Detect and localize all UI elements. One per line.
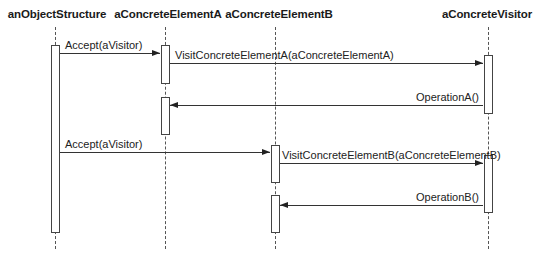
object-title-anobjectstructure: anObjectStructure [8, 8, 107, 20]
arrowhead-icon [280, 202, 288, 208]
message-arrow-accept-a [60, 53, 160, 54]
message-arrow-accept-b [60, 152, 270, 153]
activation-aconcretevisitor-2 [484, 155, 493, 213]
message-arrow-operation-a [170, 105, 483, 106]
sequence-diagram: anObjectStructure aConcreteElementA aCon… [0, 0, 545, 255]
message-arrow-visit-b [280, 163, 483, 164]
arrowhead-icon [262, 149, 270, 155]
activation-aconcreteelementa-1 [161, 45, 170, 84]
message-arrow-visit-a [170, 63, 483, 64]
message-label-accept-a: Accept(aVisitor) [65, 39, 142, 51]
activation-aconcreteelementb-1 [271, 145, 280, 183]
arrowhead-icon [152, 50, 160, 56]
message-label-operation-a: OperationA() [416, 91, 479, 103]
object-title-aconcretevisitor: aConcreteVisitor [442, 8, 532, 20]
message-label-visit-b: VisitConcreteElementB(aConcreteElementB) [282, 149, 501, 161]
message-label-visit-a: VisitConcreteElementA(aConcreteElementA) [175, 49, 394, 61]
object-title-aconcreteelementb: aConcreteElementB [225, 8, 333, 20]
activation-aconcreteelementb-2 [271, 195, 280, 233]
message-arrow-operation-b [280, 205, 483, 206]
message-label-accept-b: Accept(aVisitor) [65, 138, 142, 150]
arrowhead-icon [475, 160, 483, 166]
arrowhead-icon [475, 60, 483, 66]
activation-aconcreteelementa-2 [161, 97, 170, 135]
message-label-operation-b: OperationB() [416, 191, 479, 203]
activation-aconcretevisitor-1 [484, 55, 493, 114]
activation-anobjectstructure [51, 45, 60, 233]
object-title-aconcreteelementa: aConcreteElementA [114, 8, 222, 20]
arrowhead-icon [170, 102, 178, 108]
